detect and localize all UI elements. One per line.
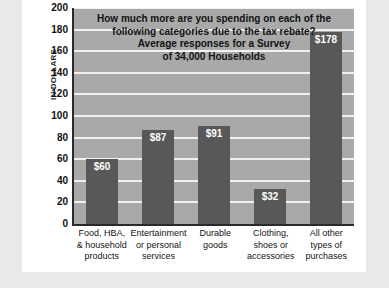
- x-category-label-2: Durablegoods: [188, 228, 244, 263]
- x-category-label-line: or personal: [131, 240, 187, 252]
- bar-value-label-0: $60: [93, 161, 112, 173]
- y-tick-label-20: 20: [57, 197, 68, 207]
- bar-value-label-3: $32: [261, 191, 280, 203]
- y-tick-label-200: 200: [51, 3, 68, 13]
- x-category-label-line: Durable: [189, 228, 243, 240]
- x-category-label-4: All othertypes ofpurchases: [299, 228, 355, 263]
- chart-page: IN DOLLARS 200180160140120100806040200 $…: [0, 0, 389, 288]
- bar-slot-1: $87: [130, 8, 186, 224]
- x-category-label-line: services: [131, 251, 187, 263]
- x-category-label-1: Entertainmentor personalservices: [130, 228, 188, 263]
- x-category-label-line: products: [75, 251, 129, 263]
- bar-3[interactable]: $32: [254, 189, 285, 224]
- bar-value-label-1: $87: [149, 132, 168, 144]
- y-tick-label-180: 180: [51, 25, 68, 35]
- y-tick-label-80: 80: [57, 133, 68, 143]
- x-axis-category-labels: Food, HBA,& householdproductsEntertainme…: [74, 228, 354, 263]
- bar-4[interactable]: $178: [310, 32, 341, 224]
- x-category-label-line: Clothing,: [244, 228, 298, 240]
- y-axis-tick-labels: 200180160140120100806040200: [30, 8, 70, 224]
- x-category-label-line: purchases: [300, 251, 354, 263]
- y-tick-label-60: 60: [57, 154, 68, 164]
- bars-layer: $60$87$91$32$178: [74, 8, 354, 224]
- bar-value-label-4: $178: [314, 34, 338, 46]
- bar-0[interactable]: $60: [86, 159, 117, 224]
- source-note-strip: [0, 274, 389, 288]
- bar-slot-0: $60: [74, 8, 130, 224]
- x-category-label-line: accessories: [244, 251, 298, 263]
- x-category-label-3: Clothing,shoes oraccessories: [243, 228, 299, 263]
- x-category-label-line: Food, HBA,: [75, 228, 129, 240]
- y-tick-label-160: 160: [51, 46, 68, 56]
- bar-slot-2: $91: [186, 8, 242, 224]
- x-category-label-line: goods: [189, 240, 243, 252]
- bar-1[interactable]: $87: [142, 130, 173, 224]
- bar-slot-4: $178: [298, 8, 354, 224]
- bar-value-label-2: $91: [205, 128, 224, 140]
- y-tick-label-0: 0: [62, 219, 68, 229]
- y-tick-label-100: 100: [51, 111, 68, 121]
- x-category-label-line: & household: [75, 240, 129, 252]
- x-category-label-line: types of: [300, 240, 354, 252]
- x-category-label-line: All other: [300, 228, 354, 240]
- plot-area: $60$87$91$32$178 How much more are you s…: [72, 8, 354, 226]
- x-category-label-line: Entertainment: [131, 228, 187, 240]
- x-category-label-line: shoes or: [244, 240, 298, 252]
- x-category-label-0: Food, HBA,& householdproducts: [74, 228, 130, 263]
- bar-slot-3: $32: [242, 8, 298, 224]
- y-tick-label-120: 120: [51, 89, 68, 99]
- chart-figure-card: IN DOLLARS 200180160140120100806040200 $…: [22, 0, 366, 272]
- y-tick-label-140: 140: [51, 68, 68, 78]
- y-tick-label-40: 40: [57, 176, 68, 186]
- bar-2[interactable]: $91: [198, 126, 229, 224]
